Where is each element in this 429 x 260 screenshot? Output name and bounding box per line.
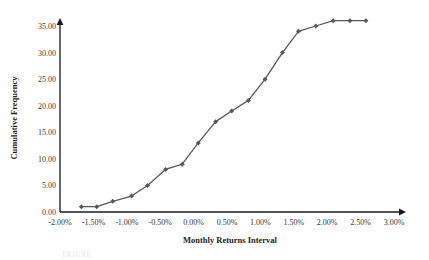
x-tick-label: -2.00% <box>48 218 72 227</box>
x-tick-label: 1.50% <box>283 218 304 227</box>
data-point-marker <box>347 18 352 23</box>
y-tick-label: 5.00 <box>42 181 56 190</box>
x-tick-label: -1.00% <box>115 218 139 227</box>
y-tick-label: 0.00 <box>42 208 56 217</box>
y-tick-label: 30.00 <box>38 49 56 58</box>
y-tick-label: 10.00 <box>38 155 56 164</box>
y-axis-title: Cumulative Frequency <box>9 76 19 160</box>
axis-lines <box>57 18 406 215</box>
x-tick-label: 3.00% <box>384 218 405 227</box>
y-tick-label: 25.00 <box>38 75 56 84</box>
figure-caption-fragment: FIGURE <box>62 250 91 259</box>
x-tick-label: 2.00% <box>317 218 338 227</box>
data-point-marker <box>79 204 84 209</box>
data-point-marker <box>313 24 318 29</box>
cumulative-frequency-chart: 0.005.0010.0015.0020.0025.0030.0035.00 -… <box>0 0 429 260</box>
x-tick-label: 1.00% <box>250 218 271 227</box>
y-axis-arrowhead <box>57 18 64 25</box>
data-point-marker <box>363 18 368 23</box>
data-point-marker <box>331 18 336 23</box>
x-axis-title: Monthly Returns Interval <box>183 235 278 245</box>
y-tick-label: 15.00 <box>38 128 56 137</box>
data-point-marker <box>94 204 99 209</box>
x-tick-label: 2.50% <box>350 218 371 227</box>
series-polyline <box>81 21 366 207</box>
chart-page: 0.005.0010.0015.0020.0025.0030.0035.00 -… <box>0 0 429 260</box>
x-axis-arrowhead <box>399 209 406 216</box>
y-axis-tick-labels: 0.005.0010.0015.0020.0025.0030.0035.00 <box>38 22 56 217</box>
data-point-marker <box>110 199 115 204</box>
x-tick-label: -1.50% <box>82 218 106 227</box>
y-tick-label: 35.00 <box>38 22 56 31</box>
x-tick-label: 0.00% <box>183 218 204 227</box>
x-tick-label: -0.50% <box>149 218 173 227</box>
y-tick-label: 20.00 <box>38 102 56 111</box>
x-tick-label: 0.50% <box>217 218 238 227</box>
data-series-line <box>81 21 366 207</box>
x-axis-tick-labels: -2.00%-1.50%-1.00%-0.50%0.00%0.50%1.00%1… <box>48 218 404 227</box>
data-point-markers <box>79 18 369 209</box>
